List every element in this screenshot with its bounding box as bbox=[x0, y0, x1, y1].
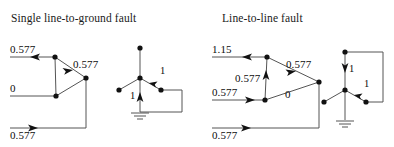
phasor-label-top-left: 1.15 bbox=[212, 43, 232, 55]
phasor-edge-arrow bbox=[263, 69, 296, 80]
phasor-edge-arrow bbox=[63, 68, 74, 75]
phasor-baseline-arrows bbox=[28, 54, 40, 132]
ground-icon bbox=[131, 113, 149, 119]
figure-line-to-line: Line-to-line fault bbox=[197, 0, 394, 147]
circuit-label-center-branch: 1 bbox=[130, 90, 135, 101]
phasor-label-middle-left: 0 bbox=[10, 82, 16, 94]
phasor-label-upper-right: 0.577 bbox=[286, 58, 311, 70]
circuit-label-right-branch: 1 bbox=[160, 65, 165, 76]
phasor-label-bottom-left: 0.577 bbox=[212, 129, 237, 141]
phasor-label-inner-right: 0 bbox=[285, 88, 291, 100]
phasor-label-top-left: 0.577 bbox=[10, 43, 35, 55]
single-line-to-ground-drawing bbox=[0, 0, 197, 147]
phasor-label-vertical: 0.577 bbox=[235, 72, 260, 84]
phasor-baseline-arrows bbox=[241, 54, 255, 132]
phasor-label-bottom-left: 0.577 bbox=[10, 129, 35, 141]
ground-icon bbox=[336, 121, 354, 127]
circuit-branches bbox=[119, 48, 182, 112]
phasor-label-middle-left: 0.577 bbox=[212, 86, 237, 98]
line-to-line-drawing bbox=[197, 0, 394, 147]
circuit-label-upper-branch: 1 bbox=[349, 63, 354, 74]
circuit-label-right-branch: 1 bbox=[364, 78, 369, 89]
phasor-label-upper-right: 0.577 bbox=[73, 58, 98, 70]
figure-single-line-to-ground: Single line-to-ground fault bbox=[0, 0, 197, 147]
